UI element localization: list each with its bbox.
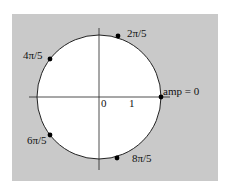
point-6pi-5 (48, 133, 53, 138)
origin-label: 0 (101, 97, 107, 109)
unit-circle-diagram: 0 1 amp = 0 2π/5 4π/5 6π/5 8π/5 (0, 0, 227, 191)
2pi-5-label: 2π/5 (127, 27, 147, 39)
amp-0-label: amp = 0 (163, 85, 200, 97)
6pi-5-label: 6π/5 (27, 134, 47, 146)
8pi-5-label: 8π/5 (132, 152, 152, 164)
4pi-5-label: 4π/5 (23, 49, 43, 61)
point-2pi-5 (116, 34, 121, 39)
unit-label: 1 (129, 97, 135, 109)
point-8pi-5 (115, 156, 120, 161)
point-4pi-5 (48, 57, 53, 62)
